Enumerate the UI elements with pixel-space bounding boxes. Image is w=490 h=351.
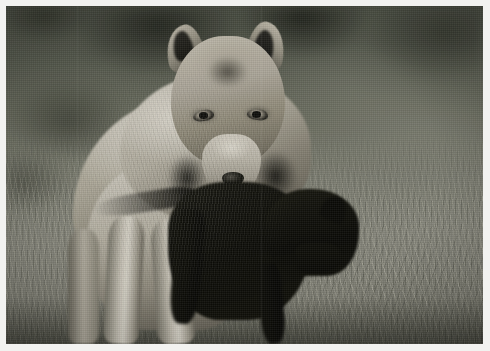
photograph-canvas <box>6 6 483 344</box>
wolf-front-left-leg <box>103 215 145 344</box>
carried-prey-snout <box>295 243 343 273</box>
wolf-rear-leg <box>68 229 99 344</box>
wolf-right-pupil <box>252 111 261 117</box>
wolf-forehead-marking <box>199 50 256 94</box>
scan-seam-line-2 <box>77 6 78 344</box>
scan-seam-line <box>261 6 262 344</box>
photo-frame <box>0 0 490 351</box>
